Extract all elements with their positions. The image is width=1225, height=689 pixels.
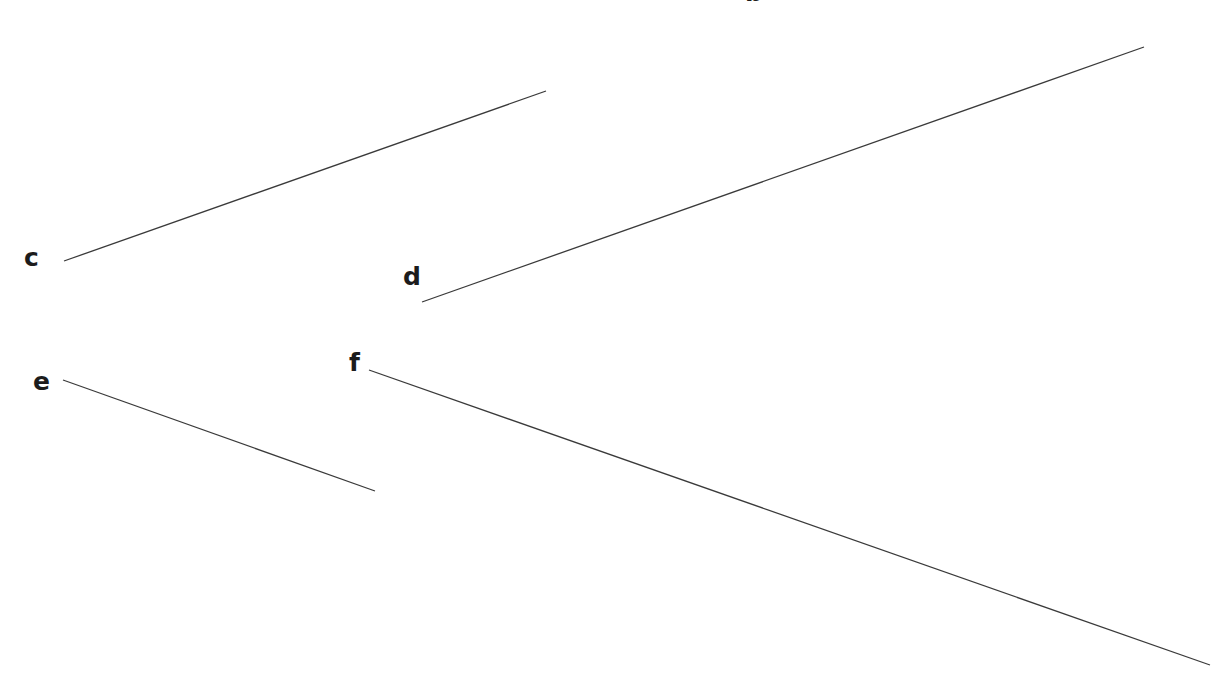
label-c: c (24, 245, 39, 270)
label-d: d (403, 264, 421, 289)
diagram-canvas (0, 0, 1225, 689)
line-segment-c (64, 91, 546, 261)
line-segment-f (369, 370, 1210, 665)
label-f: f (349, 350, 360, 375)
label-b: b (745, 0, 763, 5)
line-segment-e (63, 380, 375, 491)
line-segment-d (422, 47, 1144, 302)
label-e: e (33, 369, 50, 394)
